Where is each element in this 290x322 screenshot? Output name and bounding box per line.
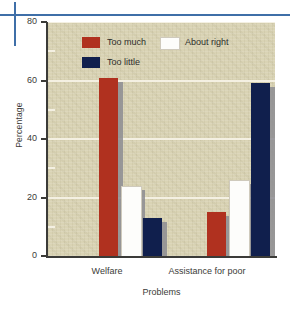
y-tick-label-60: 60 [7,76,37,85]
y-tick-label-80: 80 [7,17,37,26]
y-tick-80 [41,21,47,23]
bar-assistance-for-poor-too-little [251,83,270,256]
legend-label-too-little: Too little [107,57,140,67]
bar-body [251,83,270,256]
bar-assistance-for-poor-about-right [229,180,248,256]
bar-shadow [162,222,167,256]
bar-assistance-for-poor-too-much [207,212,226,256]
y-axis-title: Percentage [14,90,24,160]
y-tick-60 [41,80,47,82]
x-axis-line [46,256,277,258]
bar-body [143,218,162,256]
legend-label-about-right: About right [185,37,229,47]
x-axis-title: Problems [48,287,275,297]
y-tick-20 [41,197,47,199]
y-minor-tick-30 [48,167,55,169]
y-tick-40 [41,138,47,140]
bar-body [229,180,250,256]
legend-swatch-too-little [82,57,100,68]
bar-shadow [270,87,275,256]
y-tick-label-0: 0 [7,251,37,260]
bar-body [99,78,118,256]
legend-swatch-about-right [160,37,178,48]
plot-area: Too much Too little About right [48,22,275,256]
bar-body [121,186,142,256]
y-minor-tick-50 [48,109,55,111]
gridline-40 [48,138,275,140]
y-minor-tick-10 [48,226,55,228]
bar-welfare-too-little [143,218,162,256]
legend-item-about-right: About right [160,35,229,49]
bar-chart-figure: 020406080 Percentage Too much Too little [0,0,290,322]
y-tick-label-20: 20 [7,193,37,202]
decorative-horizontal-rule [0,14,290,16]
x-axis-category-label-assistance-for-poor: Assistance for poor [152,266,262,276]
bar-body [207,212,226,256]
y-tick-0 [41,255,47,257]
legend-label-too-much: Too much [107,37,146,47]
legend-item-too-much: Too much [82,35,146,49]
bar-welfare-about-right [121,186,140,256]
x-axis-category-label-welfare: Welfare [62,266,152,276]
bar-welfare-too-much [99,78,118,256]
chart-legend: Too much Too little About right [48,22,275,82]
legend-swatch-too-much [82,37,100,48]
legend-item-too-little: Too little [82,55,140,69]
